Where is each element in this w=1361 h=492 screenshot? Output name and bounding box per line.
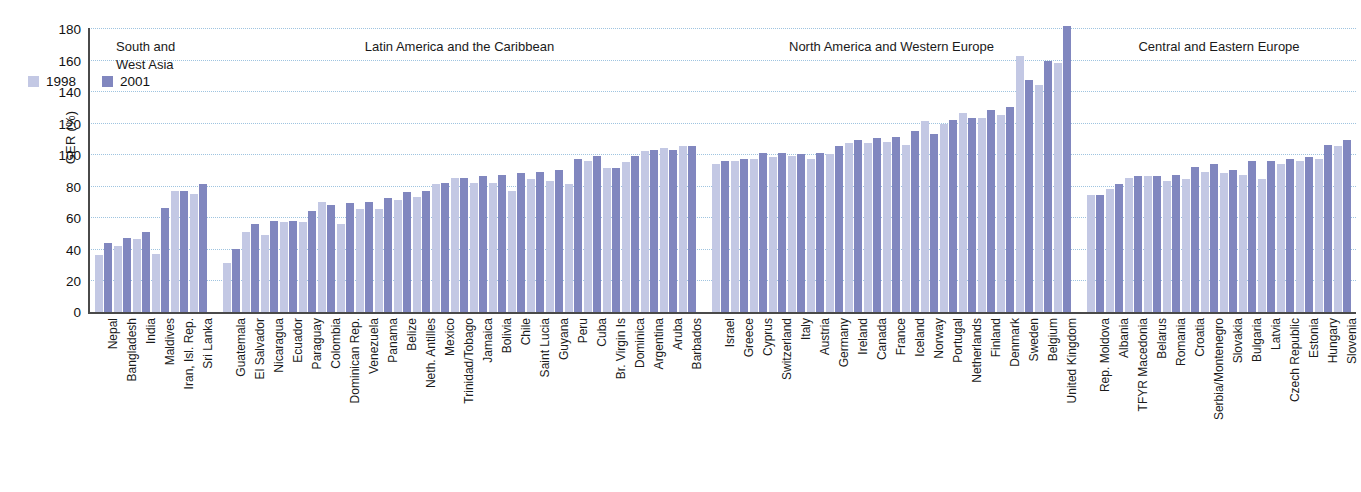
bar-2001[interactable] <box>104 243 112 312</box>
bar-1998[interactable] <box>1201 172 1209 312</box>
bar-2001[interactable] <box>721 161 729 312</box>
bar-1998[interactable] <box>921 121 929 312</box>
bar-pair[interactable] <box>1105 28 1124 312</box>
bar-1998[interactable] <box>603 168 611 312</box>
bar-1998[interactable] <box>470 183 478 312</box>
bar-pair[interactable] <box>749 28 768 312</box>
bar-pair[interactable] <box>507 28 526 312</box>
bar-pair[interactable] <box>825 28 844 312</box>
bar-2001[interactable] <box>422 191 430 312</box>
bar-2001[interactable] <box>384 198 392 312</box>
bar-1998[interactable] <box>788 156 796 312</box>
bar-pair[interactable] <box>412 28 431 312</box>
bar-2001[interactable] <box>930 134 938 312</box>
bar-2001[interactable] <box>1343 140 1351 312</box>
bar-1998[interactable] <box>489 183 497 312</box>
bar-2001[interactable] <box>911 131 919 312</box>
bar-2001[interactable] <box>835 146 843 312</box>
bar-pair[interactable] <box>977 28 996 312</box>
bar-pair[interactable] <box>1314 28 1333 312</box>
bar-pair[interactable] <box>1333 28 1352 312</box>
bar-2001[interactable] <box>1063 26 1071 312</box>
bar-pair[interactable] <box>863 28 882 312</box>
bar-pair[interactable] <box>151 28 170 312</box>
bar-1998[interactable] <box>940 124 948 312</box>
bar-pair[interactable] <box>806 28 825 312</box>
bar-2001[interactable] <box>536 172 544 312</box>
bar-1998[interactable] <box>1144 176 1152 312</box>
bar-2001[interactable] <box>180 191 188 312</box>
bar-pair[interactable] <box>1295 28 1314 312</box>
bar-2001[interactable] <box>1210 164 1218 312</box>
bar-2001[interactable] <box>873 138 881 312</box>
bar-pair[interactable] <box>901 28 920 312</box>
bar-2001[interactable] <box>232 249 240 312</box>
bar-2001[interactable] <box>778 153 786 312</box>
bar-2001[interactable] <box>759 153 767 312</box>
bar-pair[interactable] <box>882 28 901 312</box>
bar-1998[interactable] <box>1106 189 1114 312</box>
bar-pair[interactable] <box>1181 28 1200 312</box>
bar-2001[interactable] <box>289 221 297 313</box>
bar-2001[interactable] <box>161 208 169 312</box>
bar-pair[interactable] <box>355 28 374 312</box>
bar-1998[interactable] <box>1125 178 1133 312</box>
bar-1998[interactable] <box>356 209 364 312</box>
bar-1998[interactable] <box>997 115 1005 312</box>
bar-2001[interactable] <box>1025 80 1033 312</box>
bar-1998[interactable] <box>394 200 402 312</box>
bar-1998[interactable] <box>546 181 554 312</box>
bar-pair[interactable] <box>469 28 488 312</box>
bar-pair[interactable] <box>113 28 132 312</box>
bar-2001[interactable] <box>1286 159 1294 312</box>
bar-pair[interactable] <box>317 28 336 312</box>
bar-pair[interactable] <box>640 28 659 312</box>
bar-pair[interactable] <box>583 28 602 312</box>
bar-pair[interactable] <box>621 28 640 312</box>
bar-2001[interactable] <box>816 153 824 312</box>
bar-pair[interactable] <box>659 28 678 312</box>
bar-2001[interactable] <box>612 168 620 312</box>
bar-2001[interactable] <box>892 137 900 312</box>
bar-1998[interactable] <box>845 143 853 312</box>
bar-2001[interactable] <box>365 202 373 312</box>
bar-1998[interactable] <box>375 209 383 312</box>
bar-1998[interactable] <box>864 143 872 312</box>
bar-pair[interactable] <box>1015 28 1034 312</box>
bar-pair[interactable] <box>1034 28 1053 312</box>
bar-pair[interactable] <box>1053 28 1072 312</box>
bar-pair[interactable] <box>241 28 260 312</box>
bar-2001[interactable] <box>854 140 862 312</box>
bar-pair[interactable] <box>170 28 189 312</box>
bar-2001[interactable] <box>403 192 411 312</box>
bar-2001[interactable] <box>1115 184 1123 312</box>
bar-1998[interactable] <box>413 197 421 312</box>
bar-2001[interactable] <box>251 224 259 312</box>
bar-pair[interactable] <box>1238 28 1257 312</box>
bar-1998[interactable] <box>731 161 739 312</box>
bar-1998[interactable] <box>769 157 777 312</box>
bar-pair[interactable] <box>939 28 958 312</box>
bar-1998[interactable] <box>660 148 668 312</box>
bar-1998[interactable] <box>1016 56 1024 312</box>
bar-2001[interactable] <box>460 178 468 312</box>
bar-1998[interactable] <box>959 113 967 312</box>
bar-2001[interactable] <box>517 173 525 312</box>
bar-2001[interactable] <box>797 154 805 312</box>
bar-1998[interactable] <box>565 184 573 312</box>
bar-1998[interactable] <box>641 151 649 312</box>
bar-pair[interactable] <box>450 28 469 312</box>
bar-2001[interactable] <box>498 175 506 312</box>
bar-pair[interactable] <box>996 28 1015 312</box>
bar-1998[interactable] <box>750 159 758 312</box>
bar-2001[interactable] <box>555 170 563 312</box>
bar-pair[interactable] <box>279 28 298 312</box>
bar-1998[interactable] <box>584 161 592 312</box>
bar-pair[interactable] <box>374 28 393 312</box>
bar-2001[interactable] <box>1044 61 1052 312</box>
bar-2001[interactable] <box>346 203 354 312</box>
bar-1998[interactable] <box>451 178 459 312</box>
bar-pair[interactable] <box>1219 28 1238 312</box>
bar-1998[interactable] <box>133 239 141 312</box>
bar-pair[interactable] <box>260 28 279 312</box>
